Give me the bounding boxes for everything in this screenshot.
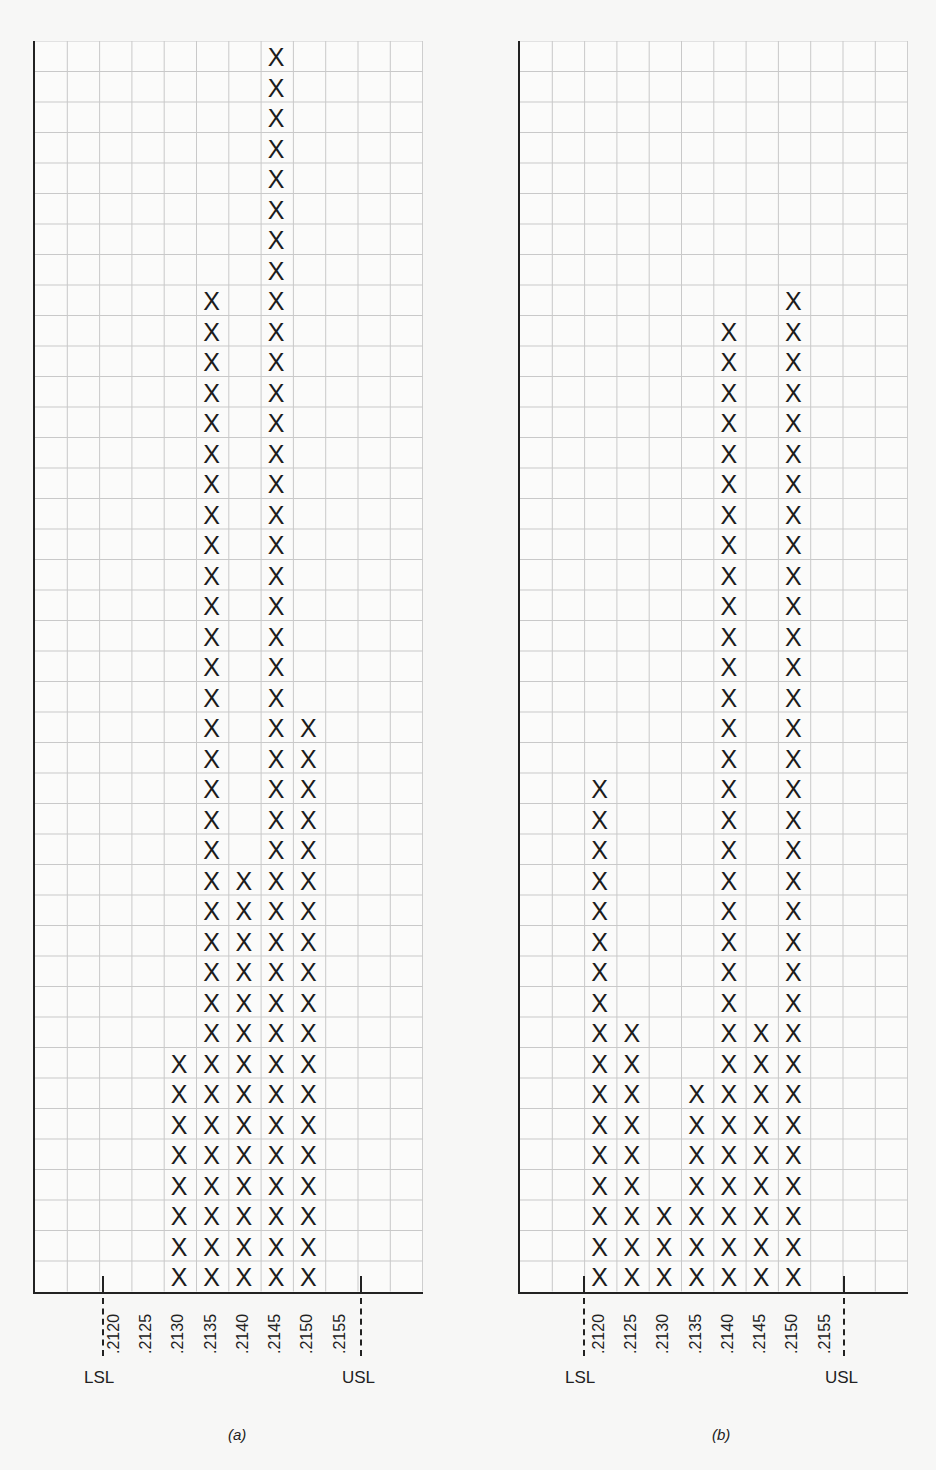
tally-mark-x: X [260, 988, 292, 1018]
tally-mark-x: X [260, 866, 292, 896]
tally-mark-x: X [713, 530, 745, 560]
tally-mark-x: X [616, 1201, 648, 1231]
tally-mark-x: X [260, 1201, 292, 1231]
caption-b: (b) [712, 1426, 730, 1443]
tally-mark-x: X [777, 1232, 809, 1262]
tally-mark-x: X [260, 652, 292, 682]
tally-mark-x: X [777, 744, 809, 774]
tally-mark-x: X [616, 1018, 648, 1048]
tally-mark-x: X [777, 500, 809, 530]
tally-mark-x: X [196, 1201, 228, 1231]
usl-marker-dashed [360, 1298, 362, 1356]
tally-mark-x: X [163, 1262, 195, 1292]
tally-mark-x: X [681, 1262, 713, 1292]
lsl-marker-top [102, 1276, 104, 1292]
tally-mark-x: X [777, 1201, 809, 1231]
tally-mark-x: X [777, 1110, 809, 1140]
tally-mark-x: X [777, 1018, 809, 1048]
tally-mark-x: X [196, 1018, 228, 1048]
tally-mark-x: X [260, 713, 292, 743]
tally-mark-x: X [681, 1171, 713, 1201]
tally-mark-x: X [713, 378, 745, 408]
tally-mark-x: X [713, 744, 745, 774]
tally-mark-x: X [648, 1232, 680, 1262]
tally-mark-x: X [584, 1140, 616, 1170]
tally-mark-x: X [745, 1201, 777, 1231]
tally-mark-x: X [292, 1171, 324, 1201]
tally-mark-x: X [260, 439, 292, 469]
tally-mark-x: X [260, 835, 292, 865]
tally-mark-x: X [163, 1171, 195, 1201]
x-tick-label: .2120 [105, 1313, 123, 1353]
tally-mark-x: X [681, 1079, 713, 1109]
tally-mark-x: X [616, 1262, 648, 1292]
tally-mark-x: X [260, 195, 292, 225]
tally-mark-x: X [196, 469, 228, 499]
tally-mark-x: X [584, 866, 616, 896]
tally-mark-x: X [777, 378, 809, 408]
tally-mark-x: X [196, 774, 228, 804]
tally-mark-x: X [713, 347, 745, 377]
tally-mark-x: X [745, 1262, 777, 1292]
tally-mark-x: X [196, 1171, 228, 1201]
tally-mark-x: X [196, 378, 228, 408]
tally-mark-x: X [260, 683, 292, 713]
tally-mark-x: X [745, 1049, 777, 1079]
tally-mark-x: X [196, 866, 228, 896]
tally-mark-x: X [292, 927, 324, 957]
x-tick-label: .2140 [719, 1313, 737, 1353]
tally-mark-x: X [777, 469, 809, 499]
lsl-label: LSL [84, 1368, 114, 1388]
x-tick-label: .2125 [622, 1313, 640, 1353]
tally-mark-x: X [260, 1079, 292, 1109]
x-tick-label: .2150 [783, 1313, 801, 1353]
tally-mark-x: X [713, 988, 745, 1018]
tally-mark-x: X [260, 561, 292, 591]
tally-mark-x: X [777, 652, 809, 682]
tally-mark-x: X [260, 134, 292, 164]
usl-marker-top [360, 1276, 362, 1292]
tally-mark-x: X [292, 1140, 324, 1170]
lsl-label: LSL [565, 1368, 595, 1388]
tally-mark-x: X [777, 805, 809, 835]
tally-mark-x: X [713, 1079, 745, 1109]
usl-label: USL [342, 1368, 375, 1388]
usl-marker-dashed [843, 1298, 845, 1356]
tally-mark-x: X [713, 439, 745, 469]
tally-mark-x: X [260, 896, 292, 926]
tally-mark-x: X [648, 1201, 680, 1231]
tally-mark-x: X [228, 1262, 260, 1292]
tally-mark-x: X [713, 835, 745, 865]
tally-mark-x: X [292, 744, 324, 774]
tally-mark-x: X [777, 347, 809, 377]
tally-mark-x: X [292, 896, 324, 926]
tally-mark-x: X [292, 835, 324, 865]
tally-mark-x: X [745, 1171, 777, 1201]
tally-mark-x: X [584, 1079, 616, 1109]
x-tick-label: .2130 [654, 1313, 672, 1353]
tally-mark-x: X [292, 774, 324, 804]
tally-mark-x: X [292, 1018, 324, 1048]
tally-mark-x: X [292, 1262, 324, 1292]
tally-mark-x: X [745, 1140, 777, 1170]
tally-mark-x: X [228, 1018, 260, 1048]
tally-mark-x: X [228, 866, 260, 896]
tally-mark-x: X [196, 805, 228, 835]
tally-mark-x: X [260, 286, 292, 316]
tally-mark-x: X [228, 1110, 260, 1140]
tally-mark-x: X [163, 1232, 195, 1262]
tally-mark-x: X [196, 1262, 228, 1292]
tally-mark-x: X [260, 256, 292, 286]
tally-mark-x: X [777, 286, 809, 316]
x-tick-label: .2145 [751, 1313, 769, 1353]
tally-mark-x: X [196, 439, 228, 469]
tally-mark-x: X [260, 103, 292, 133]
x-tick-label: .2135 [202, 1313, 220, 1353]
tally-mark-x: X [777, 1079, 809, 1109]
tally-mark-x: X [292, 866, 324, 896]
tally-mark-x: X [777, 530, 809, 560]
tally-mark-x: X [713, 591, 745, 621]
tally-mark-x: X [584, 1018, 616, 1048]
x-tick-label: .2125 [137, 1313, 155, 1353]
tally-mark-x: X [584, 1232, 616, 1262]
